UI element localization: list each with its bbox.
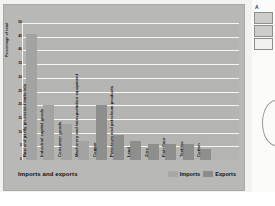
bar-industrial-capital-goods <box>43 105 54 160</box>
chart-legend: Imports Exports <box>168 171 236 177</box>
bar-label-raw-and-partly-processed-materials: Raw and partly processed materials <box>22 84 27 157</box>
bar-fish-flour <box>165 144 176 160</box>
bar-label-cotton: Cotton <box>196 143 201 157</box>
bar-lead <box>130 141 141 160</box>
bar-petroleum-and-petroleum-products <box>113 135 124 160</box>
plot-area: Raw and partly processed materialsIndust… <box>22 23 239 160</box>
bar-zinc <box>148 144 159 160</box>
bar-raw-and-partly-processed-materials <box>26 34 37 160</box>
bar-label-industrial-capital-goods: Industrial capital goods <box>39 109 44 157</box>
bar-label-consumer-goods: Consumer goods <box>57 122 62 157</box>
chart-title: Imports and exports <box>18 171 78 177</box>
bar-textiles <box>183 144 194 160</box>
legend-item-imports: Imports <box>168 171 201 177</box>
legend-label-imports: Imports <box>180 171 201 177</box>
chart-caption-bar: Imports and exports Imports Exports <box>4 160 244 190</box>
bar-cotton <box>200 149 211 160</box>
sidebar-letter-label: A <box>255 4 259 10</box>
swatch-empty-icon[interactable] <box>254 38 273 50</box>
bar-copper <box>96 105 107 160</box>
swatch-filled-mid-icon[interactable] <box>254 25 273 37</box>
legend-swatch-imports <box>168 171 178 177</box>
right-sidebar-fragment: A <box>252 0 275 192</box>
legend-item-exports: Exports <box>203 171 236 177</box>
page-bottom-margin <box>0 192 275 206</box>
bar-machinery-and-transportation-equipment <box>78 141 89 160</box>
bar-label-copper: Copper <box>92 142 97 157</box>
y-axis-tick-labels: 05101520253035404550 <box>13 23 22 160</box>
bar-series: Raw and partly processed materialsIndust… <box>24 23 239 160</box>
y-axis-title: Percentage of total <box>5 23 9 57</box>
chart-figure: Percentage of total 05101520253035404550… <box>4 5 244 190</box>
legend-label-exports: Exports <box>215 171 236 177</box>
bar-label-petroleum-and-petroleum-products: Petroleum and petroleum products <box>109 86 114 157</box>
bar-label-zinc: Zinc <box>144 148 149 157</box>
partial-circle-shape-icon <box>262 100 275 146</box>
bar-label-textiles: Textiles <box>179 141 184 157</box>
bar-label-machinery-and-transportation-equipment: Machinery and transportation equipment <box>74 74 79 157</box>
legend-swatch-exports <box>203 171 213 177</box>
bar-label-fish-flour: Fish flour <box>161 137 166 157</box>
screenshot-root: Percentage of total 05101520253035404550… <box>0 0 275 206</box>
bar-consumer-goods <box>61 124 72 160</box>
bar-label-lead: Lead <box>126 147 131 157</box>
swatch-filled-dark-icon[interactable] <box>254 12 273 24</box>
